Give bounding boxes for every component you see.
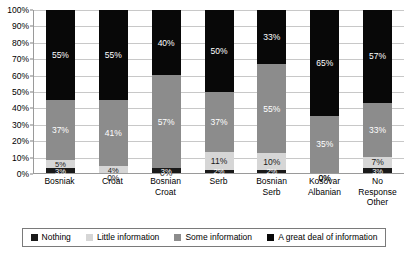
y-axis-tick-label: 50% bbox=[12, 88, 29, 97]
bar-segment-label: 40% bbox=[158, 38, 175, 47]
bar-stack[interactable]: 33%55%10%2% bbox=[257, 10, 286, 173]
bar-segment-label: 11% bbox=[211, 156, 227, 165]
bar-segment[interactable]: 50% bbox=[205, 10, 234, 92]
bar-segment[interactable]: 41% bbox=[99, 100, 128, 167]
plot-wrapper: 100%90%80%70%60%50%40%30%20%10%0% 55%37%… bbox=[0, 0, 408, 212]
x-axis-category-label: BosnianSerb bbox=[245, 176, 298, 216]
y-axis-tick-label: 0% bbox=[17, 170, 29, 179]
bar-segment[interactable]: 33% bbox=[363, 103, 392, 157]
y-axis-tick-label: 80% bbox=[12, 38, 29, 47]
bar-segment-label: 50% bbox=[210, 46, 227, 55]
bar-segment[interactable]: 2% bbox=[257, 170, 286, 173]
bar-slot: 33%55%10%2% bbox=[245, 10, 298, 173]
bar-segment-label: 55% bbox=[52, 50, 69, 59]
legend-item-label: Some information bbox=[185, 233, 252, 242]
bar-stack[interactable]: 57%33%7%3% bbox=[363, 10, 392, 173]
bar-stack[interactable]: 65%35%0%0% bbox=[310, 10, 339, 173]
legend-swatch-icon bbox=[86, 234, 93, 241]
x-axis-category-line: Other bbox=[352, 197, 403, 208]
bar-segment[interactable]: 55% bbox=[99, 10, 128, 100]
x-axis-category-label: Bosniak bbox=[33, 176, 86, 216]
stacked-bar-chart: 100%90%80%70%60%50%40%30%20%10%0% 55%37%… bbox=[0, 0, 408, 255]
plot-area: 55%37%5%3%55%41%4%0%40%57%0%3%50%37%11%2… bbox=[33, 10, 404, 174]
bar-slot: 40%57%0%3% bbox=[140, 10, 193, 173]
legend-item-label: Little information bbox=[97, 233, 159, 242]
bar-segment-label: 37% bbox=[210, 117, 227, 126]
legend-swatch-icon bbox=[31, 234, 38, 241]
y-axis-tick-label: 70% bbox=[12, 55, 29, 64]
bar-segment[interactable]: 33% bbox=[257, 10, 286, 64]
bar-segment-label: 33% bbox=[369, 125, 386, 134]
legend-item[interactable]: Nothing bbox=[31, 233, 71, 242]
bar-slot: 50%37%11%2% bbox=[193, 10, 246, 173]
bar-segment[interactable]: 35% bbox=[310, 116, 339, 173]
bar-segment[interactable]: 55% bbox=[46, 10, 75, 100]
bar-slot: 55%41%4%0% bbox=[87, 10, 140, 173]
x-axis-category-label: Serb bbox=[192, 176, 245, 216]
bar-segment[interactable]: 40% bbox=[152, 10, 181, 75]
bar-segment[interactable]: 37% bbox=[46, 100, 75, 160]
bar-segment[interactable]: 4% bbox=[99, 166, 128, 173]
x-axis-category-line: Croat bbox=[140, 187, 191, 198]
bar-segment-label: 65% bbox=[316, 58, 333, 67]
bar-segment[interactable]: 65% bbox=[310, 10, 339, 116]
x-axis-category-line: Croat bbox=[87, 176, 138, 187]
legend-item[interactable]: A great deal of information bbox=[267, 233, 377, 242]
legend-swatch-icon bbox=[174, 234, 181, 241]
bar-stack[interactable]: 55%41%4%0% bbox=[99, 10, 128, 173]
bar-segment-label: 55% bbox=[263, 104, 280, 113]
bar-segment-label: 4% bbox=[108, 165, 119, 174]
bar-segment-label: 55% bbox=[105, 50, 122, 59]
y-axis-tick-label: 60% bbox=[12, 71, 29, 80]
legend-item[interactable]: Little information bbox=[86, 233, 159, 242]
x-axis-category-line: Bosnian bbox=[140, 176, 191, 187]
bar-segment-label: 41% bbox=[105, 129, 122, 138]
bar-segment-label: 3% bbox=[372, 166, 383, 175]
bar-segment-label: 37% bbox=[52, 125, 69, 134]
bar-segment[interactable]: 10% bbox=[257, 153, 286, 169]
y-axis-tick-label: 100% bbox=[7, 6, 29, 15]
legend-item[interactable]: Some information bbox=[174, 233, 252, 242]
bar-segment-label: 57% bbox=[369, 52, 386, 61]
x-axis-category-line: Bosniak bbox=[34, 176, 85, 187]
y-axis-tick-label: 40% bbox=[12, 104, 29, 113]
bar-segment[interactable]: 5% bbox=[46, 160, 75, 168]
bar-stack[interactable]: 55%37%5%3% bbox=[46, 10, 75, 173]
legend-item-label: Nothing bbox=[42, 233, 71, 242]
bar-segment[interactable]: 55% bbox=[257, 64, 286, 154]
bar-segment[interactable]: 11% bbox=[205, 152, 234, 170]
y-axis-tick-label: 30% bbox=[12, 120, 29, 129]
bar-segment[interactable]: 3% bbox=[363, 168, 392, 173]
x-axis-category-line: No bbox=[352, 176, 403, 187]
legend-item-label: A great deal of information bbox=[278, 233, 377, 242]
legend-swatch-icon bbox=[267, 234, 274, 241]
bar-slot: 55%37%5%3% bbox=[34, 10, 87, 173]
x-axis-category-line: Albanian bbox=[299, 187, 350, 198]
bar-segment[interactable]: 2% bbox=[205, 170, 234, 173]
bar-segment-label: 10% bbox=[263, 157, 280, 166]
y-axis: 100%90%80%70%60%50%40%30%20%10%0% bbox=[0, 10, 33, 174]
bar-stack[interactable]: 50%37%11%2% bbox=[205, 10, 234, 173]
x-axis-category-line: Serb bbox=[193, 176, 244, 187]
bar-segment[interactable]: 37% bbox=[205, 92, 234, 152]
bar-segment[interactable]: 7% bbox=[363, 157, 392, 168]
x-axis-category-label: NoResponseOther bbox=[351, 176, 404, 216]
bar-segment-label: 3% bbox=[161, 166, 172, 175]
x-axis-category-line: Kosovar bbox=[299, 176, 350, 187]
bars-layer: 55%37%5%3%55%41%4%0%40%57%0%3%50%37%11%2… bbox=[34, 10, 404, 173]
bar-segment[interactable]: 3% bbox=[152, 168, 181, 173]
x-axis-category-label: BosnianCroat bbox=[139, 176, 192, 216]
bar-slot: 57%33%7%3% bbox=[351, 10, 404, 173]
y-axis-tick-label: 90% bbox=[12, 22, 29, 31]
bar-stack[interactable]: 40%57%0%3% bbox=[152, 10, 181, 173]
chart-legend: NothingLittle informationSome informatio… bbox=[22, 228, 386, 247]
bar-segment-label: 7% bbox=[371, 158, 383, 167]
bar-segment[interactable]: 3% bbox=[46, 168, 75, 173]
bar-segment-label: 33% bbox=[263, 32, 280, 41]
bar-segment-label: 57% bbox=[158, 117, 175, 126]
x-axis: BosniakCroatBosnianCroatSerbBosnianSerbK… bbox=[33, 176, 404, 216]
bar-segment[interactable]: 57% bbox=[363, 10, 392, 103]
x-axis-category-line: Response bbox=[352, 187, 403, 198]
x-axis-category-label: KosovarAlbanian bbox=[298, 176, 351, 216]
bar-segment[interactable]: 57% bbox=[152, 75, 181, 168]
